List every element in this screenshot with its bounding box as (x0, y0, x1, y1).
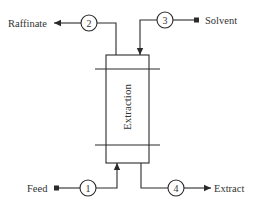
feed-label: Feed (27, 183, 48, 194)
stream-1-number: 1 (86, 183, 91, 194)
stream-extract: 4 Extract (141, 163, 244, 196)
stream-feed: 1 Feed (27, 163, 117, 196)
feed-arrow (96, 163, 117, 188)
solvent-arrow (140, 20, 157, 55)
solvent-label: Solvent (205, 15, 237, 26)
stream-3-number: 3 (163, 15, 168, 26)
unit-label: Extraction (121, 84, 133, 130)
extraction-column: Extraction (95, 55, 160, 163)
extract-line (141, 163, 168, 188)
feed-source-square-icon (54, 186, 59, 191)
stream-4-number: 4 (174, 183, 179, 194)
stream-2-number: 2 (87, 18, 92, 29)
stream-solvent: 3 Solvent (140, 12, 237, 55)
extraction-process-diagram: Extraction 2 Raffinate 3 Solvent 1 Feed … (0, 0, 258, 209)
stream-raffinate: 2 Raffinate (8, 15, 116, 55)
raffinate-label: Raffinate (8, 18, 47, 29)
extract-label: Extract (214, 183, 244, 194)
solvent-source-square-icon (194, 18, 199, 23)
raffinate-line (97, 23, 116, 55)
